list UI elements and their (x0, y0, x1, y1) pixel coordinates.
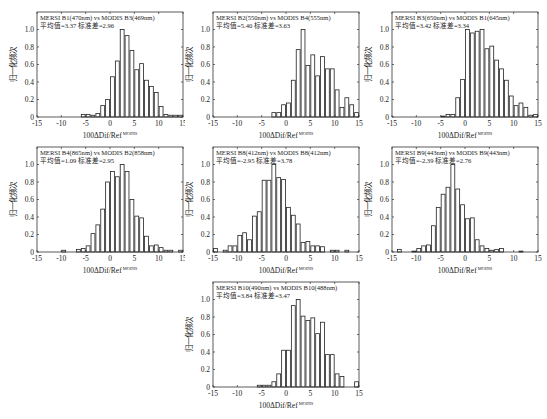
panel-title: MERSI B1(470nm) vs MODIS B3(469nm) (40, 14, 155, 22)
x-tick-label: 15 (534, 119, 542, 128)
panel-title: MERSI B9(443nm) vs MODIS B9(443nm) (395, 149, 510, 157)
histogram-bar (111, 172, 115, 253)
histogram-bar (296, 50, 300, 117)
y-tick-label: 1.0 (25, 25, 35, 34)
histogram-bar (262, 180, 266, 252)
histogram-bar (282, 179, 286, 252)
histogram-bar (480, 30, 484, 118)
y-tick-label: 0.4 (201, 348, 211, 357)
histogram-svg: -15-10-5051015100ΔDif/Ref MODIS00.20.40.… (355, 0, 547, 140)
y-tick-label: 0.4 (380, 213, 390, 222)
y-tick-label: 0.8 (25, 43, 35, 52)
histogram-bar (149, 86, 153, 117)
y-tick-label: 1.0 (380, 160, 390, 169)
y-tick-label: 0.4 (25, 213, 35, 222)
y-tick-label: 0.2 (201, 365, 211, 374)
x-tick-label: 0 (463, 119, 467, 128)
y-tick-label: 0.4 (201, 213, 211, 222)
x-tick-label: -5 (83, 119, 89, 128)
y-tick-label: 1.0 (201, 160, 211, 169)
histogram-svg: -15-10-5051015100ΔDif/Ref MODIS00.20.40.… (176, 135, 366, 275)
histogram-bar (441, 194, 445, 252)
histogram-bar (466, 30, 470, 118)
y-tick-label: 0 (30, 113, 34, 122)
y-tick-label: 0.6 (25, 195, 35, 204)
histogram-bar (509, 96, 513, 117)
y-axis-label: 归一化频次 (184, 46, 194, 82)
histogram-bar (306, 242, 310, 253)
y-tick-label: 0.8 (201, 43, 211, 52)
histogram-bar (461, 205, 465, 252)
histogram-bar (130, 200, 134, 253)
x-tick-label: 5 (308, 254, 312, 263)
y-axis-label: 归一化频次 (363, 46, 373, 82)
y-tick-label: 0.6 (380, 195, 390, 204)
histogram-bar (519, 103, 523, 117)
histogram-bar (277, 178, 281, 252)
y-tick-label: 0 (30, 248, 34, 257)
histogram-bar (330, 355, 334, 387)
histogram-bars (272, 30, 359, 118)
panel-title: MERSI B4(865nm) vs MODIS B2(858nm) (40, 149, 155, 157)
histogram-bar (495, 60, 499, 117)
histogram-panel-b10: -15-10-5051015100ΔDif/Ref MODIS00.20.40.… (176, 270, 366, 419)
y-tick-label: 1.0 (380, 25, 390, 34)
histogram-bar (115, 177, 119, 252)
histogram-bar (248, 240, 252, 252)
histogram-bar (291, 306, 295, 387)
x-tick-label: -10 (411, 254, 421, 263)
y-tick-label: 0.2 (380, 230, 390, 239)
histogram-bar (504, 80, 508, 117)
histogram-bar (490, 46, 494, 117)
y-tick-label: 0.2 (380, 95, 390, 104)
y-tick-label: 0.2 (25, 95, 35, 104)
x-tick-label: 10 (331, 254, 339, 263)
x-tick-label: -10 (232, 254, 242, 263)
panel-stats: 平均值=3.42 标准差=3.34 (395, 21, 470, 30)
histogram-bar (272, 113, 276, 117)
histogram-bar (149, 246, 153, 252)
histogram-bar (321, 322, 325, 387)
histogram-bar (355, 382, 359, 387)
x-tick-label: 5 (487, 119, 491, 128)
x-tick-label: 5 (487, 254, 491, 263)
histogram-bar (272, 165, 276, 253)
y-tick-label: 0.8 (201, 313, 211, 322)
histogram-panel-b8: -15-10-5051015100ΔDif/Ref MODIS00.20.40.… (176, 135, 366, 275)
histogram-bar (485, 49, 489, 117)
y-tick-label: 0.8 (25, 178, 35, 187)
x-tick-label: -5 (438, 119, 444, 128)
histogram-bar (96, 114, 100, 118)
histogram-bar (427, 245, 431, 252)
histogram-bar (145, 236, 149, 252)
histogram-bar (115, 61, 119, 117)
x-tick-label: -5 (259, 119, 265, 128)
x-tick-label: 15 (534, 254, 542, 263)
histogram-bar (301, 316, 305, 387)
histogram-bar (130, 51, 134, 118)
histogram-svg: -15-10-5051015100ΔDif/Ref MODIS00.20.40.… (176, 0, 366, 140)
histogram-bar (228, 246, 232, 252)
panel-stats: 平均值=3.84 标准差=3.47 (216, 291, 291, 300)
histogram-bars (257, 300, 358, 388)
x-tick-label: 0 (284, 254, 288, 263)
panel-title: MERSI B2(550nm) vs MODIS B4(555nm) (216, 14, 331, 22)
histogram-bar (524, 107, 528, 117)
x-tick-label: 0 (284, 119, 288, 128)
histogram-bar (125, 36, 129, 117)
histogram-bar (96, 225, 100, 252)
histogram-panel-b4: -15-10-5051015100ΔDif/Ref MODIS00.20.40.… (0, 135, 185, 275)
histogram-bar (500, 249, 504, 253)
histogram-bars (441, 30, 537, 118)
y-tick-label: 0 (206, 113, 210, 122)
histogram-bar (243, 233, 247, 252)
histogram-bar (154, 245, 158, 252)
x-axis-label: 100ΔDif/Ref MODIS (438, 266, 493, 275)
histogram-bar (140, 218, 144, 252)
panel-stats: 平均值=1.09 标准差=2.95 (40, 156, 115, 165)
histogram-bar (296, 224, 300, 252)
x-tick-label: 0 (284, 389, 288, 398)
histogram-bars (81, 30, 182, 118)
histogram-bar (282, 350, 286, 387)
histogram-bar (321, 247, 325, 252)
